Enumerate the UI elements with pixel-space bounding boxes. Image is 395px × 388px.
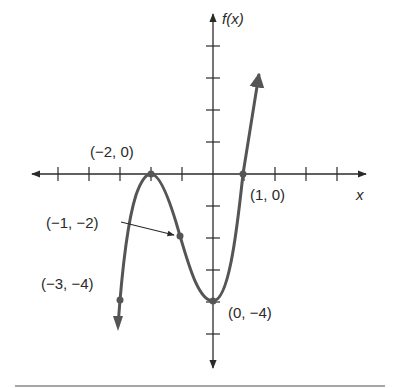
point-1-0 — [240, 171, 247, 178]
x-axis — [32, 167, 366, 181]
label-1-0: (1, 0) — [250, 186, 285, 203]
label-neg2-0: (−2, 0) — [90, 143, 134, 160]
labeled-points — [117, 171, 247, 305]
point-neg1-neg2 — [177, 233, 184, 240]
y-axis — [206, 14, 220, 368]
y-axis-label: f(x) — [222, 10, 244, 27]
point-neg3-neg4 — [117, 297, 124, 304]
function-curve — [118, 74, 259, 326]
label-0-neg4: (0, −4) — [228, 304, 272, 321]
x-axis-label: x — [355, 186, 364, 203]
point-0-neg4 — [210, 298, 217, 305]
curve-end-arrow-bottom — [113, 316, 123, 331]
point-neg2-0 — [148, 171, 155, 178]
label-neg1-neg2: (−1, −2) — [46, 214, 99, 231]
label-neg3-neg4: (−3, −4) — [41, 275, 94, 292]
function-graph: f(x) x (−2, 0) (1, 0) (−1, −2) (−3, −4) … — [0, 0, 395, 388]
